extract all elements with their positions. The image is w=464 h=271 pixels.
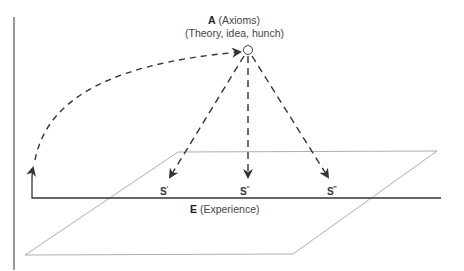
axioms-label: A (Axioms): [208, 14, 260, 26]
axioms-letter: A: [208, 14, 216, 26]
statement-label-3: S‴: [327, 184, 337, 197]
experience-baseline: [32, 168, 441, 198]
axiom-experience-diagram: [0, 0, 464, 271]
statement-letter: S: [327, 186, 334, 197]
statement-prime: ′: [167, 184, 169, 193]
axioms-description: (Theory, idea, hunch): [185, 27, 284, 39]
deduction-arrow-left: [170, 56, 244, 177]
statement-letter: S: [240, 186, 247, 197]
axioms-name: (Axioms): [219, 14, 260, 26]
statement-letter: S: [160, 186, 167, 197]
experience-name: (Experience): [200, 203, 260, 215]
statement-prime: ‴: [334, 184, 337, 193]
experience-letter: E: [190, 203, 197, 215]
axiom-node: [244, 46, 253, 55]
deduction-arrow-right: [252, 56, 328, 177]
statement-prime: ″: [247, 184, 250, 193]
induction-curve-arrow: [35, 52, 240, 160]
statement-label-2: S″: [240, 184, 250, 197]
experience-label: E (Experience): [190, 203, 259, 215]
statement-label-1: S′: [160, 184, 168, 197]
